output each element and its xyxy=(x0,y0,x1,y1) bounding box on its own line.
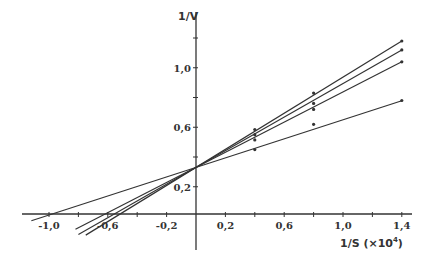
data-point xyxy=(400,48,403,51)
x-tick-label: 1,0 xyxy=(334,220,351,232)
tick-labels: -1,0-0,6-0,20,20,61,01,40,20,61,0 xyxy=(38,63,410,232)
data-point xyxy=(312,91,315,94)
y-tick-label: 0,6 xyxy=(174,122,191,134)
ticks xyxy=(49,38,402,217)
x-tick-label: -1,0 xyxy=(38,220,60,232)
series-line-line-4 xyxy=(31,101,401,221)
data-point xyxy=(312,123,315,126)
y-axis-title: 1/V xyxy=(178,10,199,23)
series-line-line-1 xyxy=(86,41,402,235)
x-tick-label: -0,2 xyxy=(156,220,178,232)
data-point xyxy=(253,138,256,141)
data-points xyxy=(253,39,403,151)
x-tick-label: 0,6 xyxy=(275,220,292,232)
data-point xyxy=(312,108,315,111)
data-point xyxy=(253,128,256,131)
series-line-line-2 xyxy=(78,50,401,235)
data-point xyxy=(253,148,256,151)
axes xyxy=(22,12,412,250)
series-line-line-3 xyxy=(75,62,401,229)
x-tick-label: -0,6 xyxy=(97,220,119,232)
series-lines xyxy=(31,41,401,235)
data-point xyxy=(400,99,403,102)
data-point xyxy=(400,39,403,42)
x-tick-label: 0,2 xyxy=(217,220,234,232)
x-tick-label: 1,4 xyxy=(393,220,410,232)
y-tick-label: 0,2 xyxy=(174,182,191,194)
data-point xyxy=(400,60,403,63)
y-tick-label: 1,0 xyxy=(174,63,191,75)
x-axis-title: 1/S (×104) xyxy=(340,236,403,250)
x-axis-title-close: ) xyxy=(398,237,403,250)
data-point xyxy=(253,133,256,136)
data-point xyxy=(312,102,315,105)
lineweaver-burk-plot: -1,0-0,6-0,20,20,61,01,40,20,61,0 1/V 1/… xyxy=(0,0,427,264)
x-axis-title-text: 1/S (×10 xyxy=(340,237,393,250)
